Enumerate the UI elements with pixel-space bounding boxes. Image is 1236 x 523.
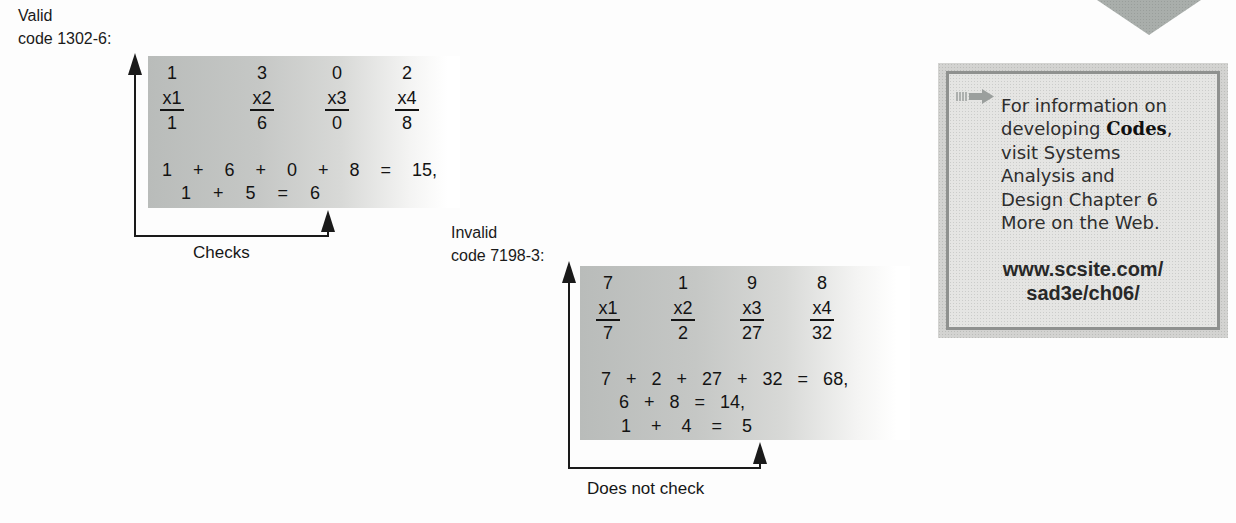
checks-result-label: Checks xyxy=(193,243,250,263)
more-on-web-text: For information on developing Codes, vis… xyxy=(1001,94,1201,234)
codes-keyword: Codes xyxy=(1106,118,1167,139)
checks-arrow xyxy=(126,48,338,244)
calc-column-4: 2 x4 8 xyxy=(383,61,431,136)
more-on-web-panel: For information on developing Codes, vis… xyxy=(938,63,1228,338)
web-url-line1: www.scsite.com/ xyxy=(949,257,1217,281)
code-digit: 8 xyxy=(798,271,846,296)
web-text-segment: developing xyxy=(1001,118,1106,139)
valid-code-label-line2: code 1302-6: xyxy=(18,27,111,50)
page-corner-triangle-icon xyxy=(1097,0,1201,35)
hatched-right-arrow-icon xyxy=(955,88,997,105)
invalid-code-label-line2: code 7198-3: xyxy=(451,244,544,267)
invalid-code-label: Invalid code 7198-3: xyxy=(451,221,544,267)
product: 8 xyxy=(383,111,431,136)
does-not-check-result-label: Does not check xyxy=(587,479,704,499)
web-text-line: For information on xyxy=(1001,94,1201,117)
multiplier-text: x4 xyxy=(810,298,833,321)
multiplier: x4 xyxy=(798,296,846,321)
web-url: www.scsite.com/ sad3e/ch06/ xyxy=(949,257,1217,305)
figure-canvas: Valid code 1302-6: 1 x1 1 3 x2 6 0 x3 0 … xyxy=(0,0,1236,523)
web-text-line: Analysis and xyxy=(1001,164,1201,187)
web-text-line: More on the Web. xyxy=(1001,211,1201,234)
web-text-line: developing Codes, xyxy=(1001,117,1201,140)
invalid-code-label-line1: Invalid xyxy=(451,221,544,244)
more-on-web-panel-inner: For information on developing Codes, vis… xyxy=(946,71,1220,330)
web-text-line: visit Systems xyxy=(1001,141,1201,164)
valid-code-label-line1: Valid xyxy=(18,4,111,27)
multiplier-text: x4 xyxy=(395,88,418,111)
code-digit: 2 xyxy=(383,61,431,86)
product: 32 xyxy=(798,321,846,346)
web-text-line: Design Chapter 6 xyxy=(1001,188,1201,211)
multiplier: x4 xyxy=(383,86,431,111)
calc-column-4: 8 x4 32 xyxy=(798,271,846,346)
web-text-segment: , xyxy=(1167,118,1173,139)
web-url-line2: sad3e/ch06/ xyxy=(949,281,1217,305)
valid-code-label: Valid code 1302-6: xyxy=(18,4,111,50)
does-not-check-arrow xyxy=(560,256,772,478)
